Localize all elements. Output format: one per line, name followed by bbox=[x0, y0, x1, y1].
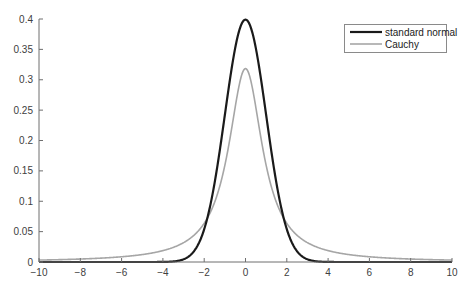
legend: standard normalCauchy bbox=[345, 25, 458, 53]
series-cauchy bbox=[39, 69, 452, 260]
x-tick-label: 2 bbox=[284, 267, 290, 278]
y-tick-label: 0.35 bbox=[14, 44, 34, 55]
x-tick-label: −8 bbox=[75, 267, 87, 278]
series-standard-normal bbox=[39, 20, 452, 262]
plot-curves bbox=[39, 20, 452, 262]
x-tick-label: 4 bbox=[325, 267, 331, 278]
y-tick-label: 0 bbox=[27, 257, 33, 268]
y-tick-label: 0.3 bbox=[19, 74, 33, 85]
chart-figure: −10−8−6−4−2024681000.050.10.150.20.250.3… bbox=[0, 0, 472, 294]
x-tick-label: 8 bbox=[408, 267, 414, 278]
y-tick-label: 0.25 bbox=[14, 105, 34, 116]
x-tick-label: 10 bbox=[446, 267, 458, 278]
y-tick-label: 0.2 bbox=[19, 135, 33, 146]
y-tick-label: 0.15 bbox=[14, 165, 34, 176]
axes: −10−8−6−4−2024681000.050.10.150.20.250.3… bbox=[14, 14, 458, 279]
x-tick-label: −10 bbox=[31, 267, 48, 278]
y-tick-label: 0.1 bbox=[19, 196, 33, 207]
x-tick-label: 0 bbox=[243, 267, 249, 278]
x-tick-label: 6 bbox=[367, 267, 373, 278]
legend-label: standard normal bbox=[385, 27, 457, 38]
x-tick-label: −4 bbox=[157, 267, 169, 278]
legend-label: Cauchy bbox=[385, 39, 419, 50]
x-tick-label: −6 bbox=[116, 267, 128, 278]
y-tick-label: 0.05 bbox=[14, 226, 34, 237]
x-tick-label: −2 bbox=[198, 267, 210, 278]
y-tick-label: 0.4 bbox=[19, 14, 33, 25]
